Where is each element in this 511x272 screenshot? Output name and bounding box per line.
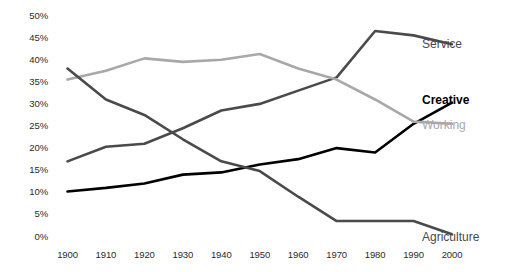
series-label-agriculture: Agriculture: [422, 231, 479, 243]
series-line-creative: [68, 103, 453, 192]
series-line-agriculture: [68, 69, 453, 235]
series-label-creative: Creative: [422, 94, 469, 106]
series-line-working: [68, 54, 453, 124]
series-label-service: Service: [422, 38, 462, 50]
line-chart: 0%5%10%15%20%25%30%35%40%45%50% 19001910…: [0, 0, 511, 272]
series-label-working: Working: [422, 119, 466, 131]
series-line-service: [68, 31, 453, 161]
